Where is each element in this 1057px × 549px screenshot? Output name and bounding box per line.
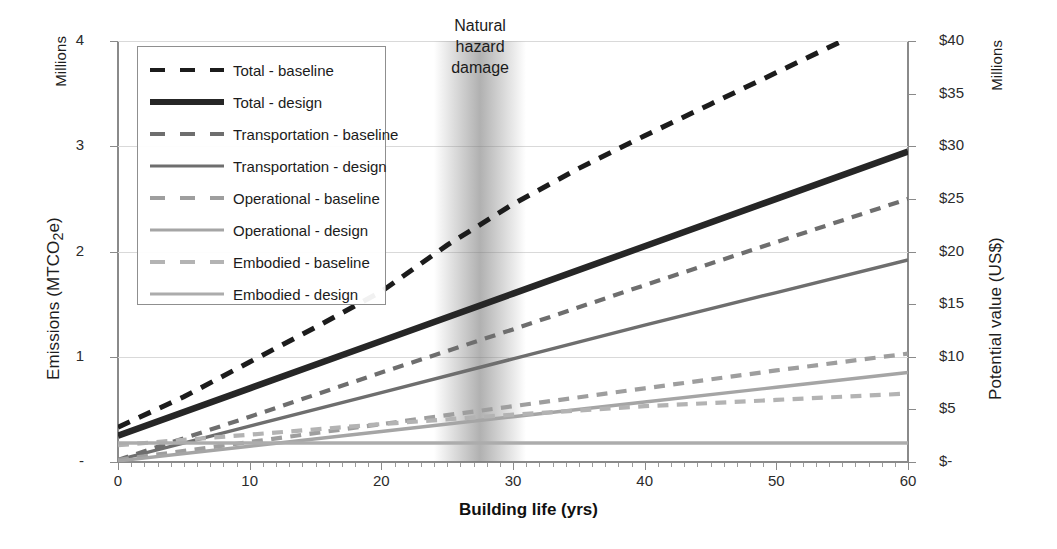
y-axis-right-tick-label: $5 (939, 399, 956, 416)
y-axis-right-title: Potential value (US$) (986, 155, 1006, 400)
x-axis-minor-tick (842, 463, 843, 467)
x-axis-tick-label: 40 (636, 472, 653, 489)
legend-swatch-icon (150, 255, 224, 269)
x-axis-minor-tick (671, 463, 672, 467)
legend-item[interactable]: Total - design (138, 86, 385, 118)
x-axis-minor-tick (342, 463, 343, 467)
legend-item[interactable]: Transportation - design (138, 150, 385, 182)
x-axis-minor-tick (855, 463, 856, 467)
x-axis-minor-tick (197, 463, 198, 467)
x-axis-minor-tick (460, 463, 461, 467)
x-axis-minor-tick (618, 463, 619, 467)
x-axis-minor-tick (803, 463, 804, 467)
y-axis-right-tick-label: $- (939, 452, 952, 469)
y-axis-right-tick (909, 252, 916, 253)
x-axis-minor-tick (526, 463, 527, 467)
x-axis-minor-tick (447, 463, 448, 467)
chart-legend: Total - baselineTotal - designTransporta… (137, 46, 386, 305)
legend-label: Operational - design (233, 222, 368, 239)
x-axis-minor-tick (711, 463, 712, 467)
x-axis-minor-tick (697, 463, 698, 467)
y-axis-left-tick-label: 4 (76, 31, 84, 48)
y-axis-left-units: Millions (52, 36, 69, 87)
legend-item[interactable]: Operational - baseline (138, 182, 385, 214)
y-axis-right-tick (909, 146, 916, 147)
natural-hazard-label-line: Natural (410, 15, 550, 36)
x-axis-minor-tick (882, 463, 883, 467)
x-axis-minor-tick (316, 463, 317, 467)
legend-label: Embodied - design (233, 286, 358, 303)
y-axis-left-tick (110, 41, 117, 42)
x-axis-minor-tick (816, 463, 817, 467)
x-axis-tick (513, 463, 514, 470)
x-axis-tick (381, 463, 382, 470)
x-axis-minor-tick (395, 463, 396, 467)
y-axis-right-tick (909, 199, 916, 200)
y-axis-left-tick-label: 1 (76, 347, 84, 364)
y-axis-right-tick-label: $15 (939, 294, 964, 311)
x-axis-minor-tick (658, 463, 659, 467)
x-axis-minor-tick (368, 463, 369, 467)
legend-swatch-icon (150, 159, 224, 173)
x-axis-minor-tick (184, 463, 185, 467)
y-axis-left-tick (110, 462, 117, 463)
legend-item[interactable]: Embodied - design (138, 278, 385, 310)
y-axis-left-tick (110, 252, 117, 253)
legend-swatch-icon (150, 63, 224, 77)
x-axis-tick-label: 50 (768, 472, 785, 489)
x-axis-minor-tick (592, 463, 593, 467)
y-axis-right-tick (909, 41, 916, 42)
y-axis-left-tick (110, 146, 117, 147)
legend-item[interactable]: Embodied - baseline (138, 246, 385, 278)
y-axis-right-tick-label: $25 (939, 189, 964, 206)
y-axis-left-tick-label: 3 (76, 136, 84, 153)
x-axis-minor-tick (171, 463, 172, 467)
x-axis-minor-tick (131, 463, 132, 467)
x-axis-title: Building life (yrs) (0, 500, 1057, 520)
x-axis-minor-tick (329, 463, 330, 467)
y-axis-right-tick-label: $20 (939, 242, 964, 259)
y-axis-right-tick (909, 304, 916, 305)
natural-hazard-label-line: damage (410, 57, 550, 78)
legend-item[interactable]: Total - baseline (138, 54, 385, 86)
x-axis-tick (776, 463, 777, 470)
x-axis-minor-tick (895, 463, 896, 467)
x-axis-minor-tick (579, 463, 580, 467)
y-axis-right-tick (909, 94, 916, 95)
y-axis-right-units: Millions (988, 40, 1005, 91)
x-axis-minor-tick (750, 463, 751, 467)
x-axis-minor-tick (355, 463, 356, 467)
y-axis-right-tick-label: $35 (939, 84, 964, 101)
x-axis-tick-label: 20 (373, 472, 390, 489)
x-axis-minor-tick (539, 463, 540, 467)
x-axis-minor-tick (566, 463, 567, 467)
y-axis-right-tick (909, 409, 916, 410)
x-axis-minor-tick (237, 463, 238, 467)
x-axis-minor-tick (487, 463, 488, 467)
legend-swatch-icon (150, 191, 224, 205)
x-axis-minor-tick (276, 463, 277, 467)
legend-label: Total - baseline (233, 62, 334, 79)
emissions-value-chart: Millions Emissions (MTCO2e) Millions Pot… (0, 0, 1057, 549)
x-axis-tick-label: 0 (114, 472, 122, 489)
x-axis-minor-tick (790, 463, 791, 467)
x-axis-tick (645, 463, 646, 470)
natural-hazard-label-line: hazard (410, 36, 550, 57)
y-axis-right-tick (909, 462, 916, 463)
legend-item[interactable]: Transportation - baseline (138, 118, 385, 150)
y-axis-right-tick-label: $40 (939, 31, 964, 48)
legend-label: Transportation - design (233, 158, 387, 175)
x-axis-minor-tick (408, 463, 409, 467)
x-axis-minor-tick (724, 463, 725, 467)
x-axis-minor-tick (605, 463, 606, 467)
legend-item[interactable]: Operational - design (138, 214, 385, 246)
x-axis-minor-tick (302, 463, 303, 467)
x-axis-minor-tick (144, 463, 145, 467)
y-axis-right-tick-label: $10 (939, 347, 964, 364)
y-axis-left-tick (110, 357, 117, 358)
legend-swatch-icon (150, 223, 224, 237)
x-axis-minor-tick (434, 463, 435, 467)
x-axis-minor-tick (158, 463, 159, 467)
natural-hazard-label: Naturalhazarddamage (410, 15, 550, 78)
x-axis-minor-tick (289, 463, 290, 467)
